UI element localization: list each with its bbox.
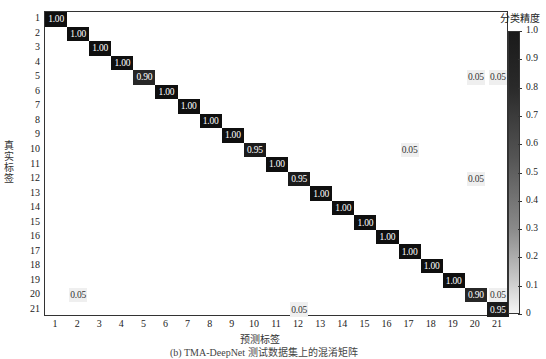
matrix-cell: 0.95 xyxy=(244,143,266,158)
colorbar-tick-label: 0.6 xyxy=(526,138,538,148)
matrix-cell: 1.00 xyxy=(222,128,244,143)
matrix-cell: 1.00 xyxy=(376,230,398,245)
colorbar-tick-mark xyxy=(518,314,522,315)
colorbar-tick-mark xyxy=(518,88,522,89)
y-tick-label: 14 xyxy=(20,201,40,212)
y-tick-label: 15 xyxy=(20,216,40,227)
x-tick-label: 11 xyxy=(266,318,286,329)
matrix-cell: 0.05 xyxy=(467,172,485,187)
matrix-cell: 0.05 xyxy=(489,70,507,85)
x-tick-label: 7 xyxy=(178,318,198,329)
matrix-cell: 0.05 xyxy=(69,288,87,303)
x-tick-label: 20 xyxy=(465,318,485,329)
x-tick-label: 12 xyxy=(288,318,308,329)
colorbar-tick-mark xyxy=(518,173,522,174)
x-tick-label: 6 xyxy=(156,318,176,329)
colorbar-tick-label: 0.1 xyxy=(526,280,538,290)
matrix-cell: 0.05 xyxy=(401,143,419,158)
colorbar-tick-label: 0.7 xyxy=(526,110,538,120)
matrix-cell: 1.00 xyxy=(155,85,177,100)
matrix-cell: 0.95 xyxy=(487,302,509,317)
y-tick-label: 6 xyxy=(20,85,40,96)
x-tick-label: 13 xyxy=(310,318,330,329)
y-tick-label: 19 xyxy=(20,274,40,285)
colorbar-tick-mark xyxy=(518,116,522,117)
matrix-cell: 1.00 xyxy=(354,215,376,230)
y-tick-label: 7 xyxy=(20,99,40,110)
x-tick-label: 8 xyxy=(200,318,220,329)
colorbar-tick-mark xyxy=(518,201,522,202)
matrix-cell: 0.95 xyxy=(288,172,310,187)
colorbar-tick-mark xyxy=(518,229,522,230)
x-tick-label: 3 xyxy=(89,318,109,329)
y-tick-label: 2 xyxy=(20,27,40,38)
colorbar-tick-label: 0.3 xyxy=(526,223,538,233)
y-tick-label: 1 xyxy=(20,12,40,23)
colorbar-tick-label: 1.0 xyxy=(526,25,538,35)
y-tick-label: 9 xyxy=(20,128,40,139)
colorbar-tick-label: 0 xyxy=(526,308,531,318)
y-axis-label: 真实标签 xyxy=(4,140,16,184)
matrix-cell: 0.05 xyxy=(290,302,308,317)
y-tick-label: 16 xyxy=(20,230,40,241)
x-tick-label: 14 xyxy=(332,318,352,329)
figure-caption: (b) TMA-DeepNet 测试数据集上的混淆矩阵 xyxy=(170,344,358,359)
colorbar-tick-mark xyxy=(518,31,522,32)
x-tick-label: 18 xyxy=(421,318,441,329)
matrix-cell: 0.05 xyxy=(467,70,485,85)
matrix-cell: 0.90 xyxy=(133,70,155,85)
matrix-cell: 1.00 xyxy=(45,12,67,27)
x-tick-label: 17 xyxy=(399,318,419,329)
matrix-cell: 1.00 xyxy=(67,27,89,42)
y-tick-label: 8 xyxy=(20,114,40,125)
colorbar-tick-mark xyxy=(518,144,522,145)
y-tick-label: 18 xyxy=(20,259,40,270)
y-tick-label: 20 xyxy=(20,288,40,299)
colorbar-tick-label: 0.4 xyxy=(526,195,538,205)
x-tick-label: 15 xyxy=(354,318,374,329)
matrix-cell: 1.00 xyxy=(399,244,421,259)
confusion-matrix-plot: 1.001.001.001.000.900.050.051.001.001.00… xyxy=(44,11,508,316)
x-tick-label: 19 xyxy=(443,318,463,329)
colorbar-tick-mark xyxy=(518,59,522,60)
x-tick-label: 16 xyxy=(376,318,396,329)
y-tick-label: 13 xyxy=(20,187,40,198)
colorbar-tick-label: 0.2 xyxy=(526,251,538,261)
matrix-cell: 0.90 xyxy=(465,288,487,303)
y-tick-label: 11 xyxy=(20,158,40,169)
matrix-cell: 1.00 xyxy=(89,41,111,56)
colorbar-tick-mark xyxy=(518,257,522,258)
x-tick-label: 9 xyxy=(222,318,242,329)
y-tick-label: 10 xyxy=(20,143,40,154)
colorbar-tick-label: 0.8 xyxy=(526,82,538,92)
matrix-cell: 0.05 xyxy=(489,288,507,303)
x-tick-label: 2 xyxy=(67,318,87,329)
matrix-cell: 1.00 xyxy=(310,186,332,201)
colorbar-tick-label: 0.5 xyxy=(526,167,538,177)
matrix-cell: 1.00 xyxy=(332,201,354,216)
y-tick-label: 4 xyxy=(20,56,40,67)
y-tick-label: 5 xyxy=(20,70,40,81)
y-tick-label: 12 xyxy=(20,172,40,183)
matrix-cell: 1.00 xyxy=(111,56,133,71)
matrix-cell: 1.00 xyxy=(266,157,288,172)
x-tick-label: 10 xyxy=(244,318,264,329)
x-tick-label: 1 xyxy=(45,318,65,329)
matrix-cell: 1.00 xyxy=(178,99,200,114)
x-tick-label: 4 xyxy=(111,318,131,329)
colorbar-tick-label: 0.9 xyxy=(526,53,538,63)
y-tick-label: 21 xyxy=(20,303,40,314)
matrix-cell: 1.00 xyxy=(421,259,443,274)
x-tick-label: 5 xyxy=(133,318,153,329)
x-tick-label: 21 xyxy=(487,318,507,329)
colorbar-title: 分类精度 xyxy=(500,10,540,25)
matrix-cell: 1.00 xyxy=(443,273,465,288)
matrix-cell: 1.00 xyxy=(200,114,222,129)
y-tick-label: 3 xyxy=(20,41,40,52)
y-tick-label: 17 xyxy=(20,245,40,256)
colorbar-tick-mark xyxy=(518,286,522,287)
